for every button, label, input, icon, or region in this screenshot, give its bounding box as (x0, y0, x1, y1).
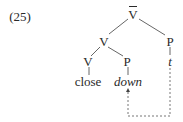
node-v: V (99, 35, 108, 48)
node-p-mid: P (123, 55, 130, 68)
leaf-down: down (114, 75, 142, 88)
edge-v-p (108, 47, 123, 56)
node-p-right: P (166, 35, 173, 48)
example-number: (25) (9, 10, 31, 23)
arrowhead-icon (126, 88, 130, 92)
edge-root-p (139, 19, 165, 35)
edge-root-v (109, 19, 128, 34)
trace: t (168, 55, 172, 68)
leaf-close: close (75, 75, 102, 88)
root-bar (129, 6, 137, 7)
node-root: V (128, 8, 137, 21)
node-v-head: V (83, 55, 92, 68)
